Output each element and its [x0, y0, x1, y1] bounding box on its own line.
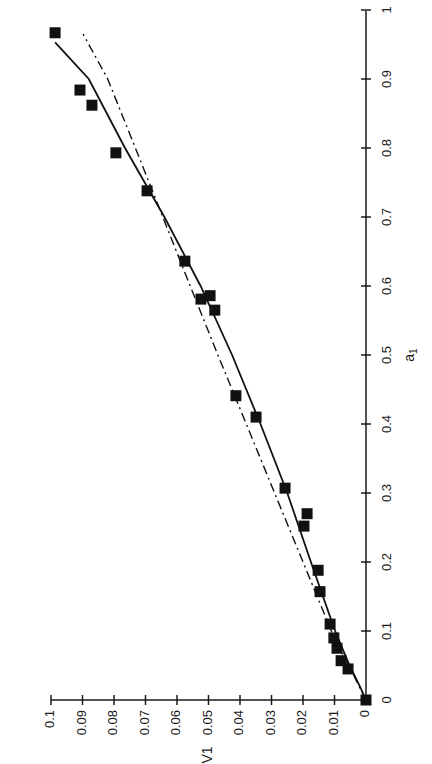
data-point-marker [332, 643, 343, 654]
data-point-marker [325, 619, 336, 630]
v1-axis-ticks: 00.010.020.030.040.050.060.070.080.090.1 [42, 695, 372, 735]
a1-tick-label: 0.1 [379, 622, 394, 640]
chart: 00.10.20.30.40.50.60.70.80.91 00.010.020… [0, 0, 432, 764]
data-point-marker [251, 412, 262, 423]
data-point-marker [230, 390, 241, 401]
data-point-marker [142, 185, 153, 196]
v1-tick-label: 0.04 [231, 710, 246, 735]
v1-tick-label: 0.06 [168, 710, 183, 735]
v1-tick-label: 0.1 [42, 710, 57, 728]
a1-axis-label: a1 [401, 348, 419, 362]
data-point-marker [110, 147, 121, 158]
data-point-marker [205, 290, 216, 301]
a1-tick-label: 0.5 [379, 346, 394, 364]
v1-tick-label: 0.07 [137, 710, 152, 735]
data-point-marker [209, 305, 220, 316]
data-point-marker [50, 27, 61, 38]
v1-axis-label: V1 [199, 746, 215, 763]
data-point-marker [86, 100, 97, 111]
a1-tick-label: 0.4 [379, 415, 394, 433]
v1-tick-label: 0.02 [294, 710, 309, 735]
data-markers [50, 27, 372, 705]
data-point-marker [328, 632, 339, 643]
data-point-marker [280, 483, 291, 494]
v1-tick-label: 0.08 [105, 710, 120, 735]
v1-tick-label: 0 [357, 710, 372, 717]
data-point-marker [336, 655, 347, 666]
plot-area: 00.10.20.30.40.50.60.70.80.91 00.010.020… [42, 6, 418, 763]
a1-tick-label: 0 [379, 696, 394, 703]
v1-tick-label: 0.09 [74, 710, 89, 735]
v1-tick-label: 0.05 [200, 710, 215, 735]
v1-tick-label: 0.01 [326, 710, 341, 735]
data-point-marker [302, 508, 313, 519]
a1-tick-label: 0.7 [379, 208, 394, 226]
data-point-marker [315, 586, 326, 597]
a1-tick-label: 0.9 [379, 70, 394, 88]
data-point-marker [179, 256, 190, 267]
a1-tick-label: 0.2 [379, 553, 394, 571]
a1-tick-label: 0.8 [379, 139, 394, 157]
v1-tick-label: 0.03 [263, 710, 278, 735]
a1-tick-label: 0.3 [379, 484, 394, 502]
a1-tick-label: 1 [379, 6, 394, 13]
data-point-marker [298, 521, 309, 532]
data-point-marker [313, 565, 324, 576]
a1-tick-label: 0.6 [379, 277, 394, 295]
data-point-marker [74, 85, 85, 96]
data-point-marker [361, 695, 372, 706]
